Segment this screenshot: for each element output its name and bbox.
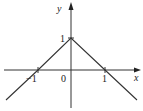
y-axis-arrow-icon [69,2,74,10]
graph: y x 0 −1 1 1 [0,0,143,111]
x-tick-label-neg-one: −1 [26,73,37,84]
y-axis-label: y [56,3,62,14]
origin-label: 0 [61,73,66,84]
x-axis-label: x [133,72,139,83]
y-tick-label-one: 1 [60,33,65,44]
x-tick-label-pos-one: 1 [102,73,107,84]
